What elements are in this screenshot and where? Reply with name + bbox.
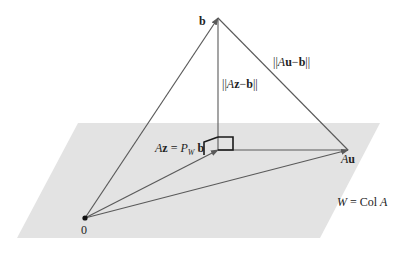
label-b: b	[199, 14, 206, 28]
norm-close: ||	[253, 77, 258, 91]
label-az-eq: =	[168, 141, 181, 155]
label-au-u: u	[348, 152, 355, 166]
label-az-b: b	[194, 141, 204, 155]
label-az-equals-pw-b: Az = PW b	[154, 141, 204, 157]
label-eq-col: = Col	[347, 195, 380, 209]
label-origin: 0	[81, 223, 87, 237]
label-norm-az-minus-b: ||Az−b||	[222, 77, 258, 91]
label-col-a: A	[379, 195, 388, 209]
origin-point	[82, 215, 87, 220]
label-norm-au-minus-b: ||Au−b||	[273, 55, 310, 69]
least-squares-diagram: b 0 Az = PW b Au ||Az−b|| ||Au−b|| W = C…	[0, 0, 402, 255]
norm-close: ||	[305, 55, 310, 69]
label-au: Au	[340, 152, 355, 166]
label-w-equals-col-a: W = Col A	[337, 195, 388, 209]
